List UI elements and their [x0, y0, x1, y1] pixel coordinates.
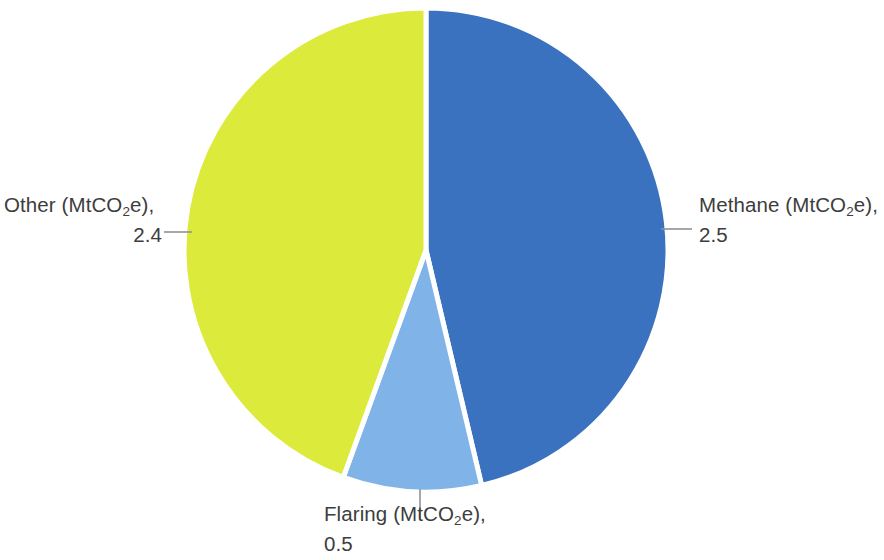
pie-label-methane-value: 2.5 — [699, 221, 878, 248]
pie-label-flaring-value: 0.5 — [324, 530, 486, 557]
pie-slices — [184, 8, 668, 492]
pie-label-flaring: Flaring (MtCO2e), 0.5 — [324, 500, 486, 557]
pie-label-other-name: Other (MtCO2e), — [4, 191, 162, 221]
pie-label-other-value: 2.4 — [4, 221, 162, 248]
pie-label-other: Other (MtCO2e), 2.4 — [4, 191, 162, 248]
pie-label-methane: Methane (MtCO2e), 2.5 — [699, 191, 878, 248]
pie-chart-canvas — [0, 0, 884, 560]
pie-label-methane-name: Methane (MtCO2e), — [699, 193, 878, 216]
pie-chart: Other (MtCO2e), 2.4 Methane (MtCO2e), 2.… — [0, 0, 884, 560]
pie-label-flaring-name: Flaring (MtCO2e), — [324, 502, 486, 525]
